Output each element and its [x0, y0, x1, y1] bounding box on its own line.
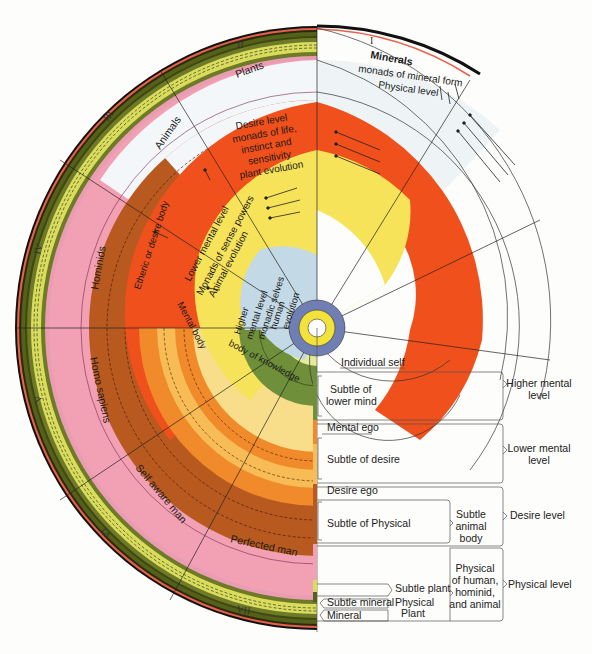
legend-subtle-animal-3: body [460, 532, 484, 544]
legend-physical-human-1: Physical [455, 562, 494, 574]
legend-desire-level: Desire level [510, 509, 565, 521]
legend-desire-ego: Desire ego [327, 484, 378, 496]
legend-higher-mental-2: level [528, 389, 550, 401]
legend-color-stripe [313, 372, 317, 602]
legend-subtle-physical: Subtle of Physical [327, 517, 410, 529]
legend-subtle-lower-mind-1: Subtle of [330, 383, 372, 395]
legend-physical-human-3: hominid, [455, 586, 495, 598]
legend-physical-level: Physical level [508, 578, 572, 590]
legend-individual-self: Individual self [341, 356, 405, 368]
legend-lower-mental-2: level [528, 454, 550, 466]
legend-subtle-lower-mind-2: lower mind [326, 395, 377, 407]
legend-physical-plant-2: Plant [401, 607, 425, 619]
legend-subtle-mineral: Subtle mineral [327, 596, 394, 608]
legend-subtle-animal-1: Subtle [456, 508, 486, 520]
legend-higher-mental-1: Higher mental [506, 377, 571, 389]
legend-physical-human-4: and animal [449, 598, 500, 610]
numeral-1: I [370, 35, 373, 46]
legend-mental-ego: Mental ego [327, 421, 379, 433]
evolution-spiral-diagram: I II III IV V VI VII Minerals Plants Ani… [0, 0, 592, 654]
legend-mineral: Mineral [327, 609, 361, 621]
legend-physical-human-2: of human, [452, 574, 499, 586]
legend-subtle-animal-2: animal [456, 520, 487, 532]
legend-lower-mental-1: Lower mental [507, 442, 570, 454]
legend-subtle-plant: Subtle plant [395, 582, 451, 594]
numeral-2: II [237, 39, 244, 50]
legend-subtle-desire: Subtle of desire [327, 453, 400, 465]
